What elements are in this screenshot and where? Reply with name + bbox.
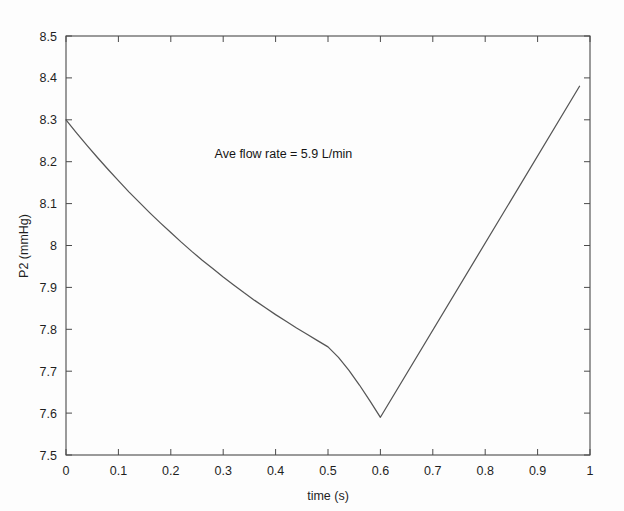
y-tick-label: 7.6	[40, 407, 57, 421]
y-axis-ticks-right	[584, 36, 590, 455]
y-tick-label: 8.4	[40, 71, 57, 85]
y-tick-label: 7.7	[40, 365, 57, 379]
chart-annotations: Ave flow rate = 5.9 L/min	[215, 147, 353, 161]
x-axis-title: time (s)	[307, 489, 349, 503]
x-tick-label: 0.9	[529, 464, 546, 478]
x-tick-label: 1	[587, 464, 594, 478]
figure-container: 00.10.20.30.40.50.60.70.80.91 7.57.67.77…	[0, 0, 624, 511]
x-axis-ticks-bottom	[66, 449, 590, 455]
x-tick-label: 0	[63, 464, 70, 478]
x-tick-label: 0.1	[110, 464, 127, 478]
y-tick-label: 8	[50, 239, 57, 253]
x-axis-ticks-top	[66, 36, 590, 42]
x-tick-label: 0.5	[319, 464, 336, 478]
y-tick-label: 7.5	[40, 449, 57, 463]
y-tick-label: 7.8	[40, 323, 57, 337]
x-tick-label: 0.3	[215, 464, 232, 478]
y-tick-label: 8.2	[40, 155, 57, 169]
plot-frame	[66, 36, 590, 455]
y-axis-title: P2 (mmHg)	[17, 214, 31, 278]
y-tick-label: 8.5	[40, 30, 57, 44]
y-axis-tick-labels: 7.57.67.77.87.988.18.28.38.48.5	[40, 30, 57, 463]
x-tick-label: 0.4	[267, 464, 284, 478]
data-series-p2	[66, 86, 580, 417]
x-tick-label: 0.7	[424, 464, 441, 478]
x-tick-label: 0.2	[162, 464, 179, 478]
y-axis-ticks-left	[66, 36, 72, 455]
y-tick-label: 8.1	[40, 197, 57, 211]
x-axis-tick-labels: 00.10.20.30.40.50.60.70.80.91	[63, 464, 594, 478]
x-tick-label: 0.6	[372, 464, 389, 478]
annotation-label: Ave flow rate = 5.9 L/min	[215, 147, 353, 161]
chart-canvas: 00.10.20.30.40.50.60.70.80.91 7.57.67.77…	[0, 0, 624, 511]
x-tick-label: 0.8	[477, 464, 494, 478]
y-tick-label: 7.9	[40, 281, 57, 295]
y-tick-label: 8.3	[40, 113, 57, 127]
